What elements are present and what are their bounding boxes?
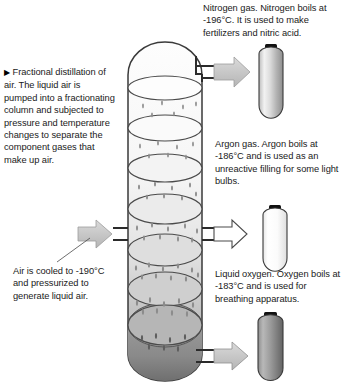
tray-1 xyxy=(128,76,202,100)
caption-left-text: Fractional distillation of air. The liqu… xyxy=(4,67,115,165)
liquid-air-inlet-arrow xyxy=(78,220,112,248)
oxygen-arrow xyxy=(214,342,248,370)
inlet-leader-line xyxy=(57,238,90,262)
caption-left: ▶ Fractional distillation of air. The li… xyxy=(4,66,116,166)
liquid-air-inlet-pipe xyxy=(113,228,128,240)
argon-outlet-pipe xyxy=(202,228,214,240)
oxygen-cylinder xyxy=(258,312,283,380)
tray-5 xyxy=(128,234,202,266)
oxygen-annotation: Liquid oxygen. Oxygen boils at -183°C an… xyxy=(215,268,345,305)
nitrogen-arrow xyxy=(214,57,250,87)
nitrogen-annotation: Nitrogen gas. Nitrogen boils at -196°C. … xyxy=(203,2,345,39)
argon-annotation: Argon gas. Argon boils at -186°C and is … xyxy=(215,138,345,188)
tray-3 xyxy=(128,154,202,182)
tray-7 xyxy=(128,305,202,345)
caption-marker-icon: ▶ xyxy=(4,68,10,77)
tray-4 xyxy=(128,194,202,224)
inlet-annotation: Air is cooled to -190°C and pressurized … xyxy=(13,265,118,302)
diagram-page: ▶ Fractional distillation of air. The li… xyxy=(0,0,345,383)
nitrogen-cylinder xyxy=(259,44,283,118)
argon-cylinder xyxy=(263,205,287,271)
tray-6 xyxy=(128,272,202,306)
fractional-distillation-diagram xyxy=(0,0,345,383)
argon-arrow xyxy=(214,220,247,248)
tray-2 xyxy=(128,115,202,141)
